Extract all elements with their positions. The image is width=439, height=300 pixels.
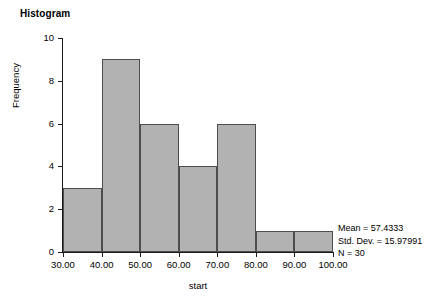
- x-tick-label-30: 30.00: [51, 259, 75, 271]
- stat-mean: Mean = 57.4333: [338, 222, 422, 235]
- statistics-annotation: Mean = 57.4333 Std. Dev. = 15.97991 N = …: [338, 222, 422, 260]
- y-tick-label-4: 4: [49, 159, 54, 172]
- y-tick-label-8: 8: [49, 74, 54, 87]
- y-tick-label-2: 2: [49, 202, 54, 215]
- x-tick-70: [217, 252, 218, 257]
- x-tick-label-90: 90.00: [283, 259, 307, 271]
- histogram-bar: [63, 188, 102, 252]
- x-tick-100: [333, 252, 334, 257]
- histogram-figure: Histogram Frequency 0 2 4 6 8 10 30.00 4…: [0, 0, 439, 300]
- y-tick-10: 10: [58, 38, 63, 39]
- y-tick-8: 8: [58, 81, 63, 82]
- x-axis-line: [62, 252, 334, 253]
- x-tick-40: [102, 252, 103, 257]
- x-tick-label-70: 70.00: [205, 259, 229, 271]
- x-tick-label-40: 40.00: [90, 259, 114, 271]
- x-tick-label-50: 50.00: [128, 259, 152, 271]
- x-tick-60: [179, 252, 180, 257]
- y-tick-label-0: 0: [49, 245, 54, 258]
- histogram-bar: [256, 231, 295, 252]
- x-tick-80: [256, 252, 257, 257]
- stat-n: N = 30: [338, 247, 422, 260]
- histogram-bar: [217, 124, 256, 252]
- y-axis-title: Frequency: [10, 63, 21, 108]
- chart-title: Histogram: [20, 8, 70, 19]
- y-tick-label-6: 6: [49, 117, 54, 130]
- histogram-bar: [179, 166, 218, 252]
- y-tick-4: 4: [58, 166, 63, 167]
- stat-std-dev: Std. Dev. = 15.97991: [338, 235, 422, 248]
- x-tick-label-60: 60.00: [167, 259, 191, 271]
- x-tick-50: [140, 252, 141, 257]
- plot-area: 0 2 4 6 8 10 30.00 40.00 50.00 60.00 70.…: [63, 38, 333, 252]
- x-tick-label-100: 100.00: [318, 259, 347, 271]
- histogram-bar: [102, 59, 141, 252]
- histogram-bar: [140, 124, 179, 252]
- y-tick-6: 6: [58, 124, 63, 125]
- histogram-bar: [294, 231, 333, 252]
- x-tick-label-80: 80.00: [244, 259, 268, 271]
- x-tick-30: [63, 252, 64, 257]
- x-tick-90: [294, 252, 295, 257]
- y-tick-label-10: 10: [43, 31, 54, 44]
- x-axis-title: start: [63, 280, 333, 291]
